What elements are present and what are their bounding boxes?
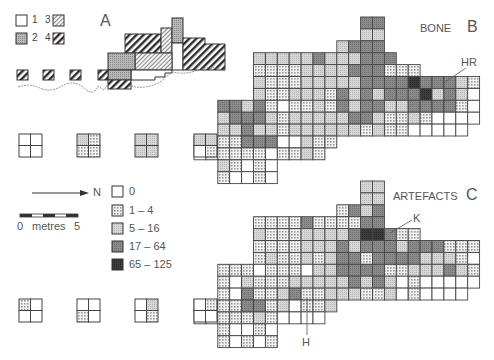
grid-cell [361, 217, 373, 229]
grid-cell [337, 241, 349, 253]
grid-cell [277, 276, 289, 288]
grid-cell [432, 276, 444, 288]
grid-cell [337, 288, 349, 300]
grid-cell [313, 241, 325, 253]
grid-cell [301, 148, 313, 160]
north-arrow [32, 190, 89, 196]
grid-cell [254, 77, 266, 89]
grid-cell [289, 112, 301, 124]
grid-cell [432, 112, 444, 124]
panel-a-label: A [100, 12, 111, 30]
grid-cell [408, 100, 420, 112]
grid-cell [218, 312, 230, 324]
grid-cell [396, 124, 408, 136]
grid-cell [396, 264, 408, 276]
grid-cell [408, 241, 420, 253]
grid-cell [373, 181, 385, 193]
grid-cell [277, 252, 289, 264]
grid-cell [265, 229, 277, 241]
grid-cell [265, 136, 277, 148]
grid-cell [420, 100, 432, 112]
grid-cell [432, 77, 444, 89]
grid-cell [265, 252, 277, 264]
grid-cell [349, 252, 361, 264]
grid-cell [349, 65, 361, 77]
grid-cell [289, 312, 301, 324]
grid-cell [456, 252, 468, 264]
grid-cell [361, 276, 373, 288]
grid-cell [289, 136, 301, 148]
grid-cell [468, 252, 480, 264]
grid-cell [218, 276, 230, 288]
grid-cell [242, 172, 254, 184]
grid-cell [337, 252, 349, 264]
grid-cell [361, 29, 373, 41]
grid-cell [361, 229, 373, 241]
grid-cell [277, 288, 289, 300]
grid-cell [289, 77, 301, 89]
grid-cell [313, 229, 325, 241]
grid-cell [242, 112, 254, 124]
grid-cell [265, 88, 277, 100]
grid-cell [289, 148, 301, 160]
grid-cell [313, 300, 325, 312]
grid-cell [396, 288, 408, 300]
grid-cell [325, 276, 337, 288]
grid-cell [230, 336, 242, 348]
scale-bar [20, 214, 78, 217]
grid-cell [456, 124, 468, 136]
grid-cell [396, 112, 408, 124]
grid-cell [373, 77, 385, 89]
grid-cell [373, 65, 385, 77]
grid-cell [265, 65, 277, 77]
grid-cell [313, 217, 325, 229]
grid-cell [265, 124, 277, 136]
grid-cell [301, 77, 313, 89]
grid-cell [337, 65, 349, 77]
grid-cell [301, 136, 313, 148]
grid-cell [242, 136, 254, 148]
grid-cell [218, 124, 230, 136]
grid-cell [242, 100, 254, 112]
grid-cell [313, 53, 325, 65]
grid-cell [289, 88, 301, 100]
grid-cell [277, 217, 289, 229]
grid-cell [313, 88, 325, 100]
grid-cell [313, 124, 325, 136]
grid-cell [254, 65, 266, 77]
grid-cell [254, 124, 266, 136]
grid-cell [349, 264, 361, 276]
grid-cell [277, 100, 289, 112]
grid-cell [373, 53, 385, 65]
grid-cell [432, 100, 444, 112]
grid-cell [373, 112, 385, 124]
annotation-k: K [413, 212, 420, 224]
grid-cell [384, 88, 396, 100]
grid-cell [432, 288, 444, 300]
key-3-label: 3 [45, 14, 51, 25]
grid-cell [408, 77, 420, 89]
grid-cell [325, 229, 337, 241]
grid-cell [384, 100, 396, 112]
grid-cell [337, 88, 349, 100]
grid-cell [254, 241, 266, 253]
key-3-swatch [53, 15, 64, 26]
grid-cell [349, 229, 361, 241]
grid-cell [254, 252, 266, 264]
grid-cell [242, 336, 254, 348]
grid-cell [408, 252, 420, 264]
grid-cell [218, 336, 230, 348]
grid-cell [337, 229, 349, 241]
grid-cell [361, 53, 373, 65]
grid-cell [408, 124, 420, 136]
scale-unit: metres [32, 220, 66, 232]
grid-cell [396, 100, 408, 112]
grid-cell [325, 300, 337, 312]
panel-b-label: B [467, 18, 478, 36]
grid-cell [384, 276, 396, 288]
grid-cell [218, 148, 230, 160]
legend-label-4: 65 – 125 [129, 258, 172, 270]
grid-cell [265, 324, 277, 336]
grid-cell [361, 77, 373, 89]
grid-cell [373, 193, 385, 205]
